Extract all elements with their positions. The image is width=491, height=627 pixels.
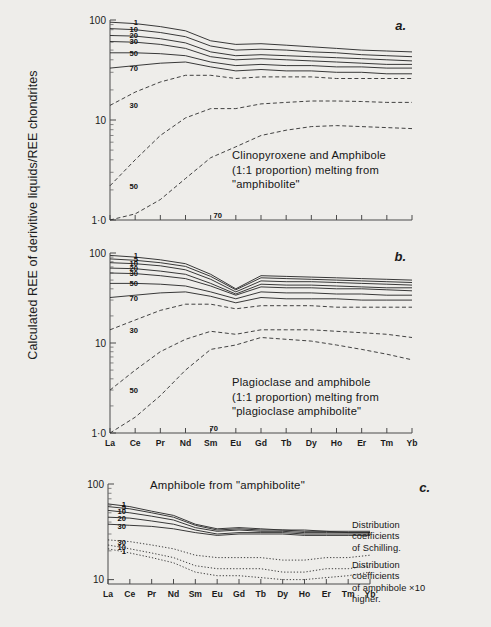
x-tick-label-gd: Gd: [255, 438, 267, 448]
note-schilling: Distribution coefficients of Schilling.: [352, 520, 440, 554]
y-tick-label: 1·0: [92, 428, 107, 439]
curve-label-30: 30: [130, 269, 138, 278]
series-line-5-solid: [110, 259, 412, 290]
curve-label-70: 70: [214, 211, 222, 220]
curve-label-50: 50: [130, 386, 138, 395]
panel-b-caption: Plagioclase and amphibole (1:1 proportio…: [232, 375, 379, 419]
x-tick-label-dy: Dy: [306, 438, 317, 448]
curve-label-70: 70: [130, 64, 138, 73]
curve-label-50: 50: [130, 279, 138, 288]
panel-b: 100101·0LaCePrNdSmEuGdTbDyHoErTmYb151020…: [60, 243, 430, 458]
x-tick-label-nd: Nd: [180, 438, 191, 448]
x-tick-label-sm: Sm: [189, 589, 203, 599]
y-tick-label: 10: [95, 115, 107, 126]
x-tick-label-er: Er: [322, 589, 332, 599]
panel-a-letter: a.: [395, 18, 406, 33]
x-tick-label-ho: Ho: [299, 589, 310, 599]
x-tick-label-la: La: [103, 589, 113, 599]
x-tick-label-tm: Tm: [380, 438, 393, 448]
y-tick-label: 10: [95, 338, 107, 349]
series-line-30-solid: [110, 42, 412, 65]
series-line-1-solid: [108, 504, 370, 531]
panel-c-title: Amphibole from "amphibolite": [150, 479, 305, 491]
x-tick-label-ho: Ho: [331, 438, 342, 448]
curve-label-70: 70: [210, 424, 218, 433]
series-line-20-solid: [110, 36, 412, 61]
panel-c: 10010LaCePrNdSmEuGdTbDyHoErTmYb151020303…: [40, 472, 440, 617]
curve-label-70: 70: [130, 294, 138, 303]
panel-a: 100101·011020305070305070 a. Clinopyroxe…: [60, 8, 430, 233]
series-line-1-dotted: [108, 549, 370, 580]
x-tick-label-pr: Pr: [156, 438, 166, 448]
y-tick-label: 1·0: [92, 215, 107, 226]
x-tick-label-tb: Tb: [256, 589, 266, 599]
x-tick-label-sm: Sm: [204, 438, 218, 448]
x-tick-label-pr: Pr: [147, 589, 157, 599]
series-line-30-dashed: [110, 304, 412, 330]
panel-c-letter: c.: [419, 480, 430, 495]
x-tick-label-eu: Eu: [230, 438, 241, 448]
series-line-10-solid: [110, 29, 412, 57]
series-line-50-solid: [110, 283, 412, 298]
panel-a-plot: 100101·011020305070305070: [60, 8, 430, 233]
x-tick-label-eu: Eu: [212, 589, 223, 599]
x-tick-label-ce: Ce: [130, 438, 141, 448]
curve-label-50: 50: [130, 49, 138, 58]
series-line-30-dashed: [110, 75, 412, 105]
series-line-10-dotted: [108, 545, 370, 572]
x-tick-label-tb: Tb: [281, 438, 292, 448]
series-line-70-solid: [110, 292, 412, 303]
series-line-30-dotted: [108, 540, 370, 560]
y-tick-label: 100: [89, 15, 106, 26]
y-axis-label: Calculated REE of derivitive liquids/REE…: [18, 0, 48, 430]
x-tick-label-dy: Dy: [277, 589, 288, 599]
y-tick-label: 100: [87, 479, 104, 490]
curve-label-30: 30: [118, 522, 126, 531]
y-tick-label: 10: [93, 574, 105, 585]
x-tick-label-er: Er: [357, 438, 367, 448]
x-tick-label-nd: Nd: [168, 589, 179, 599]
panel-b-plot: 100101·0LaCePrNdSmEuGdTbDyHoErTmYb151020…: [60, 243, 430, 458]
curve-label-30: 30: [130, 101, 138, 110]
y-tick-label: 100: [89, 248, 106, 259]
curve-label-30: 30: [130, 326, 138, 335]
curve-label-50: 50: [130, 182, 138, 191]
x-tick-label-gd: Gd: [233, 589, 245, 599]
x-tick-label-yb: Yb: [407, 438, 418, 448]
panel-b-letter: b.: [394, 249, 406, 264]
x-tick-label-la: La: [105, 438, 115, 448]
note-amphibole: Distribution coefficients of amphibole ×…: [352, 560, 440, 606]
panel-a-caption: Clinopyroxene and Amphibole (1:1 proport…: [232, 148, 386, 192]
curve-label-30: 30: [130, 37, 138, 46]
x-tick-label-ce: Ce: [124, 589, 135, 599]
figure-root: Calculated REE of derivitive liquids/REE…: [0, 0, 491, 627]
series-line-1-solid: [110, 22, 412, 52]
y-axis-label-text: Calculated REE of derivitive liquids/REE…: [26, 70, 40, 359]
curve-label-1: 1: [122, 547, 127, 556]
